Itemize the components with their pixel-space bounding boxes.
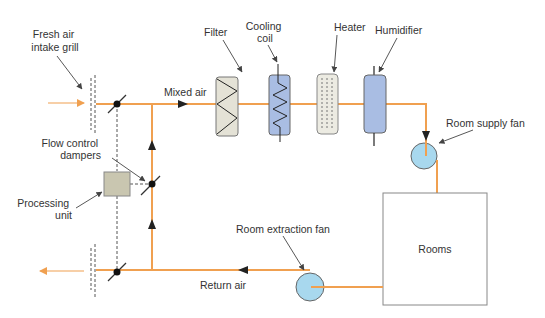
room-supply-fan [411,142,437,193]
return-air-flow-arrow [238,266,248,274]
label-flow-control-dampers: Flow control dampers [41,137,101,161]
label-mixed-air: Mixed air [164,86,207,98]
label-processing-unit: Processing unit [17,197,72,221]
heater-component [317,74,338,134]
room-extraction-fan [296,273,383,301]
damper-recirculation [141,176,160,195]
humidifier-component [364,66,386,146]
hvac-diagram: Fresh air intake grill Mixed air Filter … [0,0,545,318]
label-room-extraction-fan: Room extraction fan [236,223,330,235]
label-return-air: Return air [200,279,247,291]
label-filter: Filter [204,26,228,38]
labels: Fresh air intake grill Mixed air Filter … [17,20,525,291]
label-cooling-coil: Cooling coil [246,20,285,44]
exhaust-grill [91,244,95,298]
filter-component [216,77,238,136]
label-fresh-air-intake-grill: Fresh air intake grill [31,28,78,53]
processing-unit-box [104,172,130,196]
cooling-coil-component [269,64,290,142]
recirculation-up-arrow-1 [148,140,156,150]
label-humidifier: Humidifier [375,24,423,36]
fresh-air-intake-grill [91,75,95,134]
damper-exhaust [108,263,126,281]
mixed-air-flow-arrow [178,100,188,108]
label-rooms: Rooms [418,243,451,255]
label-room-supply-fan: Room supply fan [446,117,525,129]
label-heater: Heater [334,21,366,33]
supply-down-flow-arrow [422,131,430,141]
recirculation-up-arrow-2 [148,219,156,229]
